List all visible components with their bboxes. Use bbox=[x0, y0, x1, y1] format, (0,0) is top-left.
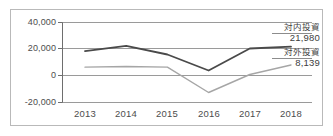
xtick-label-2015: 2015 bbox=[147, 108, 187, 119]
ytick-label-0: 0 bbox=[6, 70, 56, 80]
chart-plot-area: 40,000 20,000 0 -20,000 2013 2014 2015 2… bbox=[0, 0, 333, 136]
series-annotation-inward-name: 対内投資 bbox=[254, 22, 320, 32]
chart-figure: 40,000 20,000 0 -20,000 2013 2014 2015 2… bbox=[0, 0, 333, 136]
xtick-label-2016: 2016 bbox=[189, 108, 229, 119]
series-annotation-inward-value: 21,980 bbox=[254, 32, 320, 43]
series-annotation-outward-name: 対外投資 bbox=[254, 47, 320, 57]
xtick-label-2014: 2014 bbox=[106, 108, 146, 119]
ytick-label-40000: 40,000 bbox=[6, 17, 56, 27]
series-annotation-inward: 対内投資 21,980 bbox=[254, 22, 320, 43]
series-annotation-outward: 対外投資 8,139 bbox=[254, 47, 320, 68]
xtick-label-2018: 2018 bbox=[271, 108, 311, 119]
xtick-label-2013: 2013 bbox=[65, 108, 105, 119]
xtick-label-2017: 2017 bbox=[230, 108, 270, 119]
ytick-label-20000: 20,000 bbox=[6, 43, 56, 53]
series-annotation-outward-value: 8,139 bbox=[254, 57, 320, 68]
series-line-outward bbox=[85, 65, 291, 93]
ytick-label-minus20000: -20,000 bbox=[2, 97, 56, 107]
